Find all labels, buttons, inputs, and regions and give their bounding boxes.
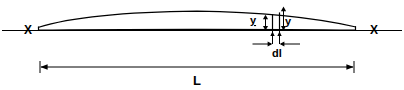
element-length-label: dl [272, 47, 282, 59]
beam-deflection-diagram: X X y y dl L [0, 0, 404, 90]
dl-base-tick-left [270, 32, 274, 36]
mean-deflection-dimension [263, 15, 268, 31]
beam-upper-curve [38, 11, 356, 27]
span-length-label: L [193, 73, 201, 88]
diagram-canvas: X X y y dl L [0, 0, 404, 90]
dl-dimension [253, 31, 301, 46]
support-label-right: X [370, 23, 378, 37]
dl-arrowhead-left [268, 42, 273, 47]
mean-deflection-arrowhead-up [263, 15, 268, 19]
local-deflection-arrowhead-up [281, 7, 286, 12]
dl-arrowhead-right [280, 42, 285, 47]
support-label-left: X [24, 23, 32, 37]
span-dimension [40, 61, 354, 73]
span-arrowhead-right [346, 64, 353, 70]
mean-deflection-label: y [250, 14, 257, 26]
dl-base-tick-right [277, 32, 281, 36]
span-arrowhead-left [40, 64, 47, 70]
local-deflection-label: y [285, 15, 292, 27]
